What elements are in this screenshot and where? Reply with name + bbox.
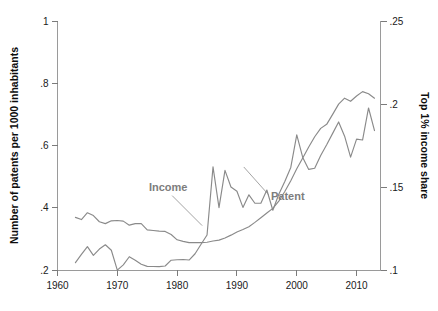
x-axis-tick-label: 1960 bbox=[46, 280, 69, 291]
y-axis-left-tick-label: .6 bbox=[40, 140, 49, 151]
annotation-leader-patent bbox=[244, 167, 269, 195]
y-axis-left-tick-label: .8 bbox=[40, 78, 49, 89]
y-axis-left-title: Number of patents per 1000 inhabitants bbox=[8, 47, 20, 244]
y-axis-left-tick-label: 1 bbox=[43, 16, 49, 27]
x-axis-tick-label: 1990 bbox=[226, 280, 249, 291]
y-axis-left-tick-label: .4 bbox=[40, 202, 49, 213]
y-axis-right-tick-label: .1 bbox=[390, 265, 399, 276]
y-axis-right-tick-label: .15 bbox=[390, 182, 404, 193]
y-axis-left-tick-label: .2 bbox=[40, 265, 49, 276]
y-axis-right-title: Top 1% income share bbox=[419, 92, 431, 199]
x-axis-tick-label: 2010 bbox=[345, 280, 368, 291]
dual-axis-line-chart: .2.4.6.81.1.15.2.25196019701980199020002… bbox=[0, 0, 438, 311]
chart-figure: .2.4.6.81.1.15.2.25196019701980199020002… bbox=[0, 0, 438, 311]
x-axis-tick-label: 1970 bbox=[106, 280, 129, 291]
x-axis-tick-label: 2000 bbox=[286, 280, 309, 291]
series-line-patent bbox=[75, 92, 374, 243]
annotation-label-income: Income bbox=[149, 181, 188, 193]
x-axis-tick-label: 1980 bbox=[166, 280, 189, 291]
annotation-leader-income bbox=[172, 196, 202, 226]
y-axis-right-tick-label: .25 bbox=[390, 16, 404, 27]
annotation-label-patent: Patent bbox=[271, 190, 305, 202]
y-axis-right-tick-label: .2 bbox=[390, 99, 399, 110]
series-line-income bbox=[75, 108, 374, 270]
